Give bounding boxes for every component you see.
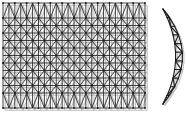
truss-node	[67, 40, 69, 42]
truss-node	[132, 92, 134, 94]
truss-node	[26, 2, 28, 4]
truss-node	[103, 85, 105, 87]
truss-node	[49, 77, 51, 79]
truss-node	[8, 70, 10, 72]
truss-node	[2, 47, 4, 49]
truss-node	[55, 85, 57, 87]
truss-node	[115, 25, 117, 27]
truss-node	[49, 47, 51, 49]
truss-node	[14, 32, 16, 34]
truss-node	[132, 62, 134, 64]
truss-node	[109, 17, 111, 19]
truss-node	[38, 17, 40, 19]
truss-node	[144, 17, 146, 19]
truss-node	[97, 62, 99, 64]
truss-node	[49, 92, 51, 94]
truss-node	[55, 55, 57, 57]
truss-node	[44, 55, 46, 57]
truss-node	[120, 107, 122, 109]
truss-node	[67, 70, 69, 72]
truss-node	[38, 62, 40, 64]
truss-node	[38, 47, 40, 49]
truss-node	[8, 85, 10, 87]
truss-node	[61, 77, 63, 79]
truss-node	[103, 25, 105, 27]
truss-node	[85, 47, 87, 49]
truss-node	[97, 32, 99, 34]
truss-node	[132, 32, 134, 34]
truss-node	[120, 77, 122, 79]
truss-node	[109, 2, 111, 4]
truss-node	[126, 55, 128, 57]
truss-node	[26, 62, 28, 64]
truss-node	[8, 40, 10, 42]
truss-node	[44, 85, 46, 87]
truss-node	[67, 85, 69, 87]
truss-node	[73, 47, 75, 49]
truss-node	[79, 85, 81, 87]
truss-node	[67, 55, 69, 57]
truss-node	[26, 92, 28, 94]
truss-node	[132, 77, 134, 79]
truss-node	[120, 47, 122, 49]
truss-node	[67, 25, 69, 27]
truss-node	[91, 55, 93, 57]
truss-node	[138, 40, 140, 42]
truss-node	[85, 107, 87, 109]
truss-node	[2, 92, 4, 94]
truss-node	[55, 25, 57, 27]
truss-node	[91, 40, 93, 42]
truss-node	[44, 70, 46, 72]
truss-node	[91, 70, 93, 72]
truss-node	[97, 17, 99, 19]
truss-node	[115, 85, 117, 87]
truss-node	[32, 55, 34, 57]
truss-node	[85, 17, 87, 19]
truss-node	[2, 2, 4, 4]
truss-node	[144, 107, 146, 109]
truss-node	[73, 92, 75, 94]
truss-diagram-figure	[0, 0, 187, 114]
truss-node	[32, 40, 34, 42]
truss-node	[115, 70, 117, 72]
truss-node	[20, 85, 22, 87]
truss-node	[126, 85, 128, 87]
truss-node	[55, 70, 57, 72]
truss-node	[49, 17, 51, 19]
truss-node	[79, 55, 81, 57]
truss-node	[2, 17, 4, 19]
truss-node	[2, 32, 4, 34]
truss-node	[61, 17, 63, 19]
truss-node	[97, 92, 99, 94]
truss-node	[103, 55, 105, 57]
truss-node	[55, 40, 57, 42]
truss-node	[61, 47, 63, 49]
truss-node	[32, 70, 34, 72]
truss-node	[26, 107, 28, 109]
truss-node	[109, 32, 111, 34]
truss-node	[73, 2, 75, 4]
truss-node	[126, 70, 128, 72]
truss-node	[138, 55, 140, 57]
truss-node	[26, 47, 28, 49]
truss-node	[144, 47, 146, 49]
truss-node	[138, 85, 140, 87]
truss-node	[144, 92, 146, 94]
truss-node	[109, 47, 111, 49]
truss-node	[14, 62, 16, 64]
truss-node	[49, 32, 51, 34]
truss-node	[115, 40, 117, 42]
truss-node	[14, 92, 16, 94]
truss-node	[85, 32, 87, 34]
truss-node	[79, 25, 81, 27]
diagram-canvas	[0, 0, 187, 114]
truss-node	[120, 92, 122, 94]
truss-node	[8, 55, 10, 57]
truss-node	[144, 32, 146, 34]
truss-node	[132, 17, 134, 19]
truss-node	[49, 62, 51, 64]
truss-node	[132, 2, 134, 4]
truss-node	[144, 2, 146, 4]
truss-node	[49, 2, 51, 4]
truss-node	[8, 25, 10, 27]
